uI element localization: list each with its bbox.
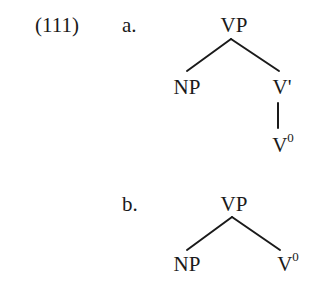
tree-b-root-vp: VP [221,194,248,215]
tree-b-edges [0,0,322,293]
tree-b-node-v0: V0 [277,254,299,275]
tree-b-v0-superscript: 0 [292,249,299,264]
tree-b-node-np: NP [174,254,201,275]
edge-vp-v0 [232,217,280,250]
tree-b-v0-base: V [277,252,292,276]
edge-vp-np [187,217,232,250]
